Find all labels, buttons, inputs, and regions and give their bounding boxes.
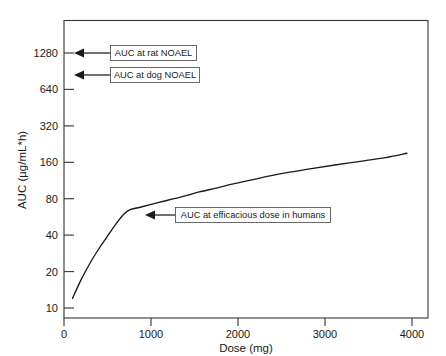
x-tick-label-4000: 4000 (400, 328, 424, 340)
human-efficacious-label: AUC at efficacious dose in humans (181, 210, 326, 220)
human-efficacious-arrow-icon (145, 211, 155, 220)
annotation-rat-noael: AUC at rat NOAEL (74, 46, 197, 61)
x-tick-label-0: 0 (61, 328, 67, 340)
annotation-dog-noael: AUC at dog NOAEL (74, 68, 200, 83)
y-tick-label-320: 320 (40, 120, 58, 132)
x-tick-label-2000: 2000 (226, 328, 250, 340)
y-tick-label-20: 20 (46, 266, 58, 278)
x-axis-ticks (64, 318, 412, 326)
x-axis-tick-labels: 0 1000 2000 3000 4000 (61, 328, 424, 340)
y-axis-ticks (64, 53, 74, 308)
dog-noael-arrow-icon (74, 71, 84, 80)
plot-frame (64, 21, 428, 319)
y-tick-label-10: 10 (46, 302, 58, 314)
y-tick-label-160: 160 (40, 156, 58, 168)
y-axis-tick-labels: 1280 640 320 160 80 40 20 10 (34, 47, 58, 314)
y-tick-label-80: 80 (46, 193, 58, 205)
x-tick-label-3000: 3000 (313, 328, 337, 340)
annotation-human-efficacious: AUC at efficacious dose in humans (145, 208, 331, 223)
rat-noael-label: AUC at rat NOAEL (115, 48, 193, 58)
y-axis-title: AUC (µg/mL*h) (16, 131, 28, 209)
x-tick-label-1000: 1000 (139, 328, 163, 340)
y-tick-label-1280: 1280 (34, 47, 58, 59)
auc-dose-chart: 1280 640 320 160 80 40 20 10 0 1000 2000… (0, 0, 446, 356)
chart-figure: 1280 640 320 160 80 40 20 10 0 1000 2000… (0, 0, 446, 356)
auc-dose-curve (72, 153, 406, 298)
rat-noael-arrow-icon (74, 49, 84, 58)
dog-noael-label: AUC at dog NOAEL (114, 70, 196, 80)
y-tick-label-640: 640 (40, 83, 58, 95)
y-tick-label-40: 40 (46, 229, 58, 241)
x-axis-title: Dose (mg) (219, 342, 273, 354)
